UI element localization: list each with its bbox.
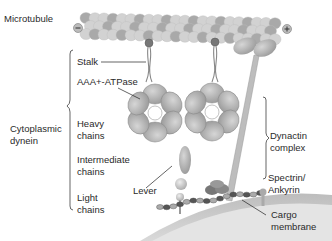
label-cytoplasmic-dynein: Cytoplasmic dynein bbox=[10, 123, 62, 146]
spectrin-link bbox=[170, 204, 177, 209]
spectrin-link bbox=[157, 205, 164, 210]
label-lever: Lever bbox=[133, 185, 157, 197]
aaa-ring-left bbox=[124, 84, 186, 142]
stalk-right bbox=[211, 38, 219, 82]
spectrin-link bbox=[217, 196, 224, 201]
spectrin-link bbox=[197, 198, 204, 203]
dynactin-base bbox=[205, 180, 229, 195]
spectrin-link bbox=[190, 198, 197, 203]
spectrin-link bbox=[250, 192, 257, 197]
spectrin-link bbox=[230, 192, 237, 197]
label-aaa-atpase: AAA+-ATPase bbox=[77, 76, 138, 88]
label-cargo-membrane: Cargo membrane bbox=[271, 209, 316, 232]
spectrin-link bbox=[243, 192, 250, 197]
label-heavy-chains: Heavy chains bbox=[77, 118, 104, 141]
label-spectrin-ankyrin: Spectrin/ Ankyrin bbox=[268, 172, 306, 195]
aaa-ring-right bbox=[181, 83, 243, 141]
spectrin-link bbox=[223, 194, 230, 199]
stalk-left bbox=[145, 39, 153, 82]
label-intermediate-chains: Intermediate chains bbox=[77, 154, 130, 177]
label-dynactin-complex: Dynactin complex bbox=[270, 130, 307, 153]
spectrin-link bbox=[237, 192, 244, 197]
label-microtubule: Microtubule bbox=[4, 13, 53, 25]
spectrin-link bbox=[177, 202, 184, 207]
minus-end-icon bbox=[74, 24, 83, 33]
spectrin-link bbox=[203, 198, 210, 203]
label-light-chains: Light chains bbox=[77, 192, 104, 215]
spectrin-link bbox=[210, 198, 217, 203]
spectrin-link bbox=[163, 205, 170, 210]
spectrin-link bbox=[183, 199, 190, 204]
plus-end-icon bbox=[283, 25, 292, 34]
dynein-diagram bbox=[0, 0, 332, 241]
label-stalk: Stalk bbox=[77, 56, 98, 68]
